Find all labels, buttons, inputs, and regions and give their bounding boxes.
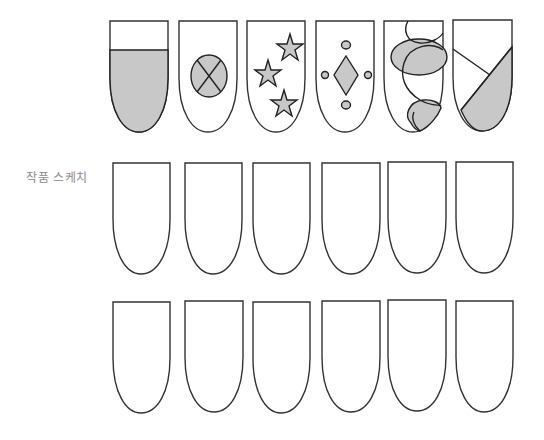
nail-design-diamond [316,21,374,132]
nail-design-loops [384,21,447,132]
nail-design-stars [247,21,305,132]
nail-design-diagonal [453,20,512,131]
nail-templates [0,0,544,440]
blank-row-1 [113,162,513,274]
blank-row-2 [113,300,513,413]
nail-design-oval-cross [179,21,237,132]
nail-design-french [110,21,168,132]
